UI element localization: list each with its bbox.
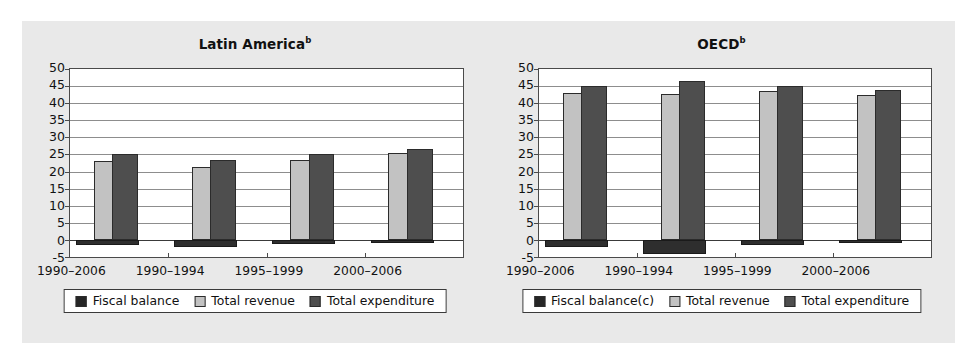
x-axis-tick	[365, 253, 366, 258]
x-tick-label: 1990–1994	[590, 264, 689, 278]
bar-total-expenditure	[407, 149, 433, 240]
legend-item: Total revenue	[194, 295, 295, 307]
legend-label: Fiscal balance	[93, 295, 180, 307]
legend-item: Total expenditure	[785, 295, 909, 307]
bar-fiscal-balance	[545, 240, 608, 247]
legend-label: Total revenue	[211, 295, 295, 307]
y-tick-label: 15	[49, 183, 65, 196]
y-axis-tick	[65, 86, 70, 87]
y-axis-tick	[534, 103, 539, 104]
legend-item: Total revenue	[669, 295, 770, 307]
legend-swatch-balance-icon	[76, 296, 87, 307]
y-tick-label: 5	[57, 217, 65, 230]
bar-total-revenue	[661, 94, 681, 240]
x-tick-label: 1995–1999	[220, 264, 319, 278]
x-axis-tick	[735, 253, 736, 258]
bar-group	[833, 69, 931, 257]
x-tick-label: 1995–1999	[688, 264, 787, 278]
bar-total-revenue	[857, 95, 877, 240]
bar-group	[70, 69, 168, 257]
y-axis-tick	[65, 206, 70, 207]
bar-total-expenditure	[581, 86, 606, 240]
legend-swatch-revenue-icon	[194, 296, 205, 307]
x-axis-labels-latin-america: 1990–20061990–19941995–19992000–2006	[22, 264, 417, 278]
legend-item: Total expenditure	[310, 295, 434, 307]
legend-swatch-expenditure-icon	[785, 296, 796, 307]
bar-fiscal-balance	[741, 240, 804, 245]
y-axis-labels-oecd: -505101520253035404550	[496, 68, 534, 258]
legend-item: Fiscal balance(c)	[534, 295, 654, 307]
x-axis-ticks-oecd	[539, 253, 931, 258]
chart-title-text: OECD	[697, 36, 739, 52]
bar-group	[539, 69, 637, 257]
y-tick-label: 25	[518, 148, 534, 161]
chart-title-superscript: b	[740, 35, 746, 45]
chart-title-text: Latin America	[199, 36, 305, 52]
x-tick-label: 1990–2006	[22, 264, 121, 278]
bar-total-expenditure	[777, 86, 802, 240]
legend-label: Total revenue	[686, 295, 770, 307]
legend-label: Total expenditure	[802, 295, 909, 307]
bar-total-expenditure	[309, 154, 335, 239]
x-axis-ticks-latin-america	[70, 253, 463, 258]
y-axis-tick	[65, 240, 70, 241]
y-tick-label: 10	[518, 200, 534, 213]
y-axis-tick	[534, 206, 539, 207]
y-axis-tick	[65, 189, 70, 190]
x-tick-label: 2000–2006	[787, 264, 886, 278]
y-axis-tick	[534, 154, 539, 155]
bar-group	[735, 69, 833, 257]
y-axis-tick	[534, 257, 539, 258]
chart-title-superscript: b	[305, 35, 311, 45]
legend-latin-america: Fiscal balanceTotal revenueTotal expendi…	[64, 289, 447, 313]
figure-container: Latin Americab -505101520253035404550 19…	[22, 21, 955, 343]
y-tick-label: 40	[49, 96, 65, 109]
bar-fiscal-balance	[839, 240, 902, 243]
plot-area-oecd: -505101520253035404550	[538, 68, 932, 258]
x-tick-label: 2000–2006	[318, 264, 417, 278]
y-axis-tick	[65, 172, 70, 173]
y-tick-label: 20	[518, 165, 534, 178]
bar-total-expenditure	[875, 90, 900, 240]
x-axis-tick	[833, 253, 834, 258]
legend-swatch-expenditure-icon	[310, 296, 321, 307]
y-tick-label: 35	[518, 114, 534, 127]
y-axis-tick	[534, 189, 539, 190]
y-tick-label: 5	[526, 217, 534, 230]
bar-group	[267, 69, 365, 257]
y-axis-tick	[534, 120, 539, 121]
y-axis-tick	[534, 172, 539, 173]
y-axis-tick	[65, 223, 70, 224]
y-tick-label: 15	[518, 183, 534, 196]
bar-total-revenue	[94, 161, 114, 240]
legend-swatch-balance-icon	[534, 296, 545, 307]
plot-frame-latin-america	[69, 68, 464, 258]
x-axis-tick	[267, 253, 268, 258]
bar-total-expenditure	[210, 160, 236, 240]
y-axis-tick	[534, 240, 539, 241]
bar-total-revenue	[290, 160, 310, 240]
y-tick-label: 40	[518, 96, 534, 109]
y-tick-label: 45	[49, 79, 65, 92]
bar-fiscal-balance	[371, 240, 434, 243]
y-axis-tick	[534, 137, 539, 138]
y-axis-labels-latin-america: -505101520253035404550	[27, 68, 65, 258]
bar-total-expenditure	[112, 154, 138, 240]
chart-title-latin-america: Latin Americab	[22, 35, 488, 52]
x-tick-label: 1990–2006	[491, 264, 590, 278]
bar-total-revenue	[388, 153, 408, 239]
y-axis-tick	[534, 86, 539, 87]
y-axis-tick	[65, 257, 70, 258]
y-axis-tick	[65, 120, 70, 121]
bar-fiscal-balance	[643, 240, 706, 254]
legend-oecd: Fiscal balance(c)Total revenueTotal expe…	[522, 289, 921, 313]
y-tick-label: 0	[57, 234, 65, 247]
x-tick-label: 1990–1994	[121, 264, 220, 278]
bar-fiscal-balance	[76, 240, 139, 245]
plot-frame-oecd	[538, 68, 932, 258]
bar-total-revenue	[759, 91, 779, 240]
bar-group	[637, 69, 735, 257]
y-tick-label: 50	[49, 62, 65, 75]
y-axis-tick	[65, 69, 70, 70]
y-tick-label: -5	[522, 252, 534, 265]
